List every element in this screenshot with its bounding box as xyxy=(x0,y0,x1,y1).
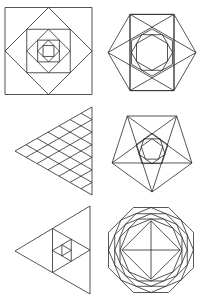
nested-triangles-figure xyxy=(15,206,90,294)
square-outline xyxy=(27,29,71,73)
inner-triangle xyxy=(62,245,71,256)
triangle-outline xyxy=(130,14,196,90)
square-outline xyxy=(27,29,71,73)
pentagram-outline xyxy=(112,116,192,192)
triangle-lattice-figure xyxy=(15,107,92,195)
inner-hexagon xyxy=(131,35,172,71)
lattice-line xyxy=(37,138,92,169)
pentagon-star-figure xyxy=(112,116,192,192)
square-outline xyxy=(43,46,54,57)
square-outline xyxy=(38,40,60,62)
square-outline xyxy=(5,8,92,95)
square-outline xyxy=(5,8,92,95)
figure-svg xyxy=(0,0,200,303)
geometric-figures-plate xyxy=(0,0,200,303)
inner-hexagon xyxy=(132,29,173,76)
hexagon-star-figure xyxy=(108,14,196,90)
inner-pentagon xyxy=(141,139,162,159)
square-outline xyxy=(38,40,60,62)
triangle-outline xyxy=(108,14,174,90)
nested-squares-figure xyxy=(5,8,92,95)
octagon-rosette-figure xyxy=(109,208,194,293)
lattice-line xyxy=(37,132,92,163)
lattice-line xyxy=(81,182,92,188)
lattice-line xyxy=(81,113,92,119)
inner-hexagon xyxy=(137,35,168,71)
hexagon-outline xyxy=(108,14,196,90)
